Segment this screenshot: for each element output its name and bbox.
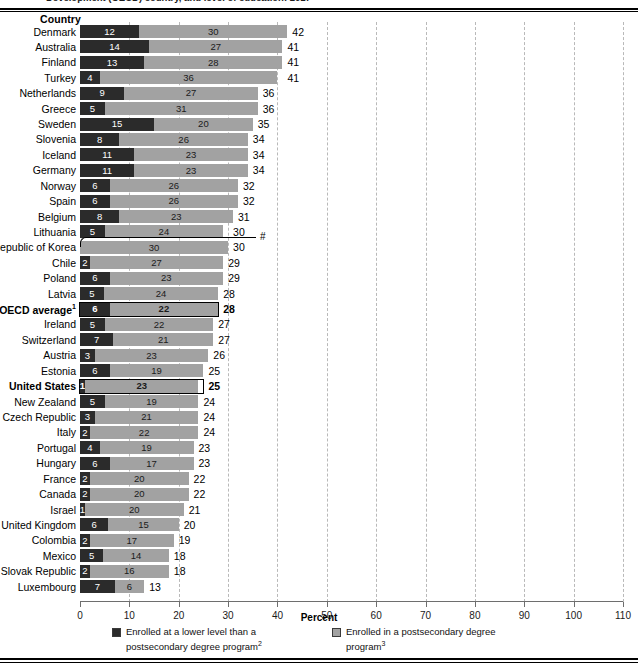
table-row: OECD average162228 xyxy=(80,303,623,316)
legend-swatch-dark xyxy=(112,628,121,637)
tickmark-80 xyxy=(475,602,476,607)
stacked-bar: 531 xyxy=(80,102,258,115)
bar-total-value: 41 xyxy=(287,57,299,68)
stacked-bar: 623 xyxy=(80,272,223,285)
bar-segment-postsecondary: 15 xyxy=(108,518,179,531)
bar-value-postsecondary: 24 xyxy=(159,227,170,237)
bar-value-postsecondary: 19 xyxy=(146,397,157,407)
row-label-france: France xyxy=(43,473,76,484)
table-row: Netherlands92736 xyxy=(80,87,623,100)
stacked-bar: 1520 xyxy=(80,118,253,131)
bar-value-postsecondary: 31 xyxy=(176,104,187,114)
bar-value-lower-level: 6 xyxy=(92,273,97,283)
bar-segment-lower-level: 9 xyxy=(80,87,124,100)
bar-value-lower-level: 8 xyxy=(97,135,102,145)
table-row: France22022 xyxy=(80,472,623,485)
tickmark-30 xyxy=(228,602,229,607)
bar-value-postsecondary: 17 xyxy=(146,459,157,469)
chart-title-text: Development (OECD) country, and level of… xyxy=(46,0,311,3)
tickmark-0 xyxy=(80,602,81,607)
bar-total-value: 42 xyxy=(292,26,304,37)
table-row: Chile22729 xyxy=(80,256,623,269)
bar-value-postsecondary: 17 xyxy=(127,536,138,546)
header-rule-thin xyxy=(0,11,638,12)
table-row: Iceland112334 xyxy=(80,148,623,161)
bar-total-value: 25 xyxy=(208,365,220,376)
row-label-denmark: Denmark xyxy=(33,26,76,37)
bar-segment-lower-level: 7 xyxy=(80,333,113,346)
bar-total-value: 22 xyxy=(194,489,206,500)
bar-value-lower-level: 6 xyxy=(92,366,97,376)
bar-segment-postsecondary: 20 xyxy=(154,118,253,131)
bar-value-lower-level: 15 xyxy=(112,119,123,129)
bar-segment-lower-level: 8 xyxy=(80,210,119,223)
row-label-colombia: Colombia xyxy=(32,535,76,546)
legend-label: Enrolled at a lower level than a postsec… xyxy=(126,626,306,652)
bar-segment-lower-level: 6 xyxy=(80,195,110,208)
bar-total-value: 36 xyxy=(263,103,275,114)
row-label-canada: Canada xyxy=(39,489,76,500)
row-label-czech-republic: Czech Republic xyxy=(2,412,76,423)
bar-value-postsecondary: 26 xyxy=(168,181,179,191)
bar-segment-postsecondary: 21 xyxy=(113,333,213,346)
bar-segment-postsecondary: 27 xyxy=(124,87,257,100)
table-row: Slovak Republic21618 xyxy=(80,565,623,578)
stacked-bar: 76 xyxy=(80,580,144,593)
bar-value-postsecondary: 16 xyxy=(124,566,135,576)
bar-segment-postsecondary: 23 xyxy=(134,164,248,177)
bar-segment-lower-level: 2 xyxy=(80,488,90,501)
bar-total-value: 28 xyxy=(223,304,235,315)
stacked-bar: 522 xyxy=(80,318,213,331)
table-row: Luxembourg7613 xyxy=(80,580,623,593)
x-axis-line xyxy=(80,601,623,602)
bar-value-lower-level: 2 xyxy=(82,258,87,268)
bar-value-postsecondary: 27 xyxy=(186,88,197,98)
stacked-bar: 519 xyxy=(80,395,198,408)
row-label-greece: Greece xyxy=(42,103,76,114)
bar-value-postsecondary: 6 xyxy=(127,582,132,592)
bar-segment-postsecondary: 22 xyxy=(110,303,219,316)
row-label-austria: Austria xyxy=(43,350,76,361)
footer-rule-thick xyxy=(0,658,638,660)
bar-total-value: 27 xyxy=(218,319,230,330)
row-label-israel: Israel xyxy=(50,504,76,515)
bar-total-value: 24 xyxy=(203,396,215,407)
bar-value-lower-level: 13 xyxy=(107,58,118,68)
bar-segment-postsecondary: 36 xyxy=(100,71,278,84)
bar-value-postsecondary: 23 xyxy=(186,150,197,160)
tickmark-10 xyxy=(129,602,130,607)
bar-segment-postsecondary: 26 xyxy=(110,195,238,208)
bar-segment-lower-level: 7 xyxy=(80,580,115,593)
bar-total-value: 35 xyxy=(258,119,270,130)
table-row: Sweden152035 xyxy=(80,118,623,131)
bar-total-value: 29 xyxy=(228,258,240,269)
stacked-bar: 419 xyxy=(80,441,194,454)
bar-value-postsecondary: 21 xyxy=(141,412,152,422)
bar-segment-lower-level: 2 xyxy=(80,256,90,269)
bar-segment-postsecondary: 14 xyxy=(103,549,168,562)
bar-segment-postsecondary: 23 xyxy=(119,210,233,223)
tickmark-20 xyxy=(179,602,180,607)
stacked-bar: 524 xyxy=(80,225,228,238)
table-row: Norway62632 xyxy=(80,179,623,192)
tickmark-110 xyxy=(623,602,624,607)
bar-value-postsecondary: 23 xyxy=(136,381,147,391)
bar-total-value: 34 xyxy=(253,134,265,145)
bar-segment-lower-level: 2 xyxy=(80,472,90,485)
row-label-norway: Norway xyxy=(40,180,76,191)
bar-segment-lower-level: 6 xyxy=(80,303,110,316)
bar-total-value: 22 xyxy=(194,473,206,484)
stacked-bar: 222 xyxy=(80,426,198,439)
bar-segment-lower-level: 5 xyxy=(80,318,105,331)
bar-segment-lower-level: 5 xyxy=(80,287,104,300)
stacked-bar: 1230 xyxy=(80,25,287,38)
bar-segment-lower-level: 13 xyxy=(80,56,144,69)
bar-segment-lower-level: 6 xyxy=(80,179,110,192)
row-label-lithuania: Lithuania xyxy=(33,227,76,238)
bar-segment-postsecondary: 22 xyxy=(105,318,214,331)
bar-segment-postsecondary: 19 xyxy=(105,395,199,408)
bar-total-value: 36 xyxy=(263,88,275,99)
bar-value-lower-level: 3 xyxy=(85,412,90,422)
bar-value-postsecondary: 22 xyxy=(154,320,165,330)
row-label-sweden: Sweden xyxy=(38,119,76,130)
